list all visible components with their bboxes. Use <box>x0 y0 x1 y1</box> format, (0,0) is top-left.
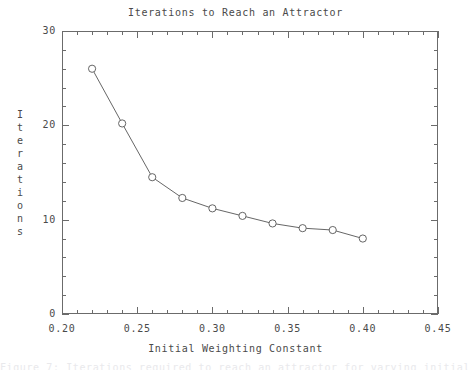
x-axis-tick-label: 0.35 <box>258 323 318 334</box>
chart-title: Iterations to Reach an Attractor <box>0 7 471 18</box>
x-axis-tick-label: 0.40 <box>333 323 393 334</box>
x-axis-tick-label: 0.30 <box>182 323 242 334</box>
figure-caption-cutoff: Figure 7: Iterations required to reach a… <box>0 362 471 370</box>
y-axis-title-char: e <box>12 134 28 147</box>
x-axis-tick-label: 0.20 <box>32 323 92 334</box>
y-axis-title-char: I <box>12 108 28 121</box>
y-axis-title-char: o <box>12 199 28 212</box>
x-axis-tick-label: 0.45 <box>408 323 468 334</box>
y-axis-tick-label: 30 <box>18 25 56 36</box>
y-axis-title-char: n <box>12 212 28 225</box>
y-axis-title: Iterations <box>12 108 28 238</box>
y-axis-title-char: a <box>12 160 28 173</box>
plot-area <box>62 31 438 314</box>
y-axis-title-char: i <box>12 186 28 199</box>
y-axis-title-char: t <box>12 173 28 186</box>
chart-figure: Iterations to Reach an Attractor 0102030… <box>0 0 471 370</box>
x-axis-tick-label: 0.25 <box>107 323 167 334</box>
y-axis-tick-label: 0 <box>18 308 56 319</box>
y-axis-title-char: t <box>12 121 28 134</box>
x-axis-title: Initial Weighting Constant <box>0 343 471 354</box>
y-axis-title-char: s <box>12 225 28 238</box>
y-axis-title-char: r <box>12 147 28 160</box>
